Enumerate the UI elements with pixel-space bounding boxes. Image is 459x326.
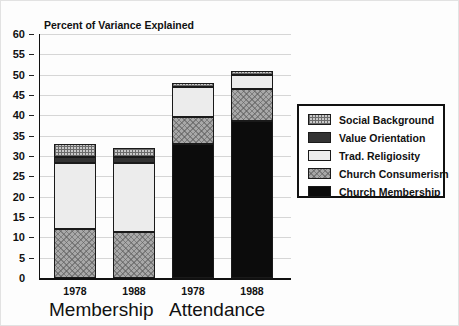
- y-axis-line: [39, 34, 40, 279]
- ytick-mark-5: [29, 258, 34, 259]
- bar-membership-1988: [113, 148, 155, 278]
- xtick-label-membership-1978: 1978: [63, 285, 86, 297]
- bar-segment-social-background: [54, 144, 96, 157]
- xtick-label-attendance-1978: 1978: [181, 285, 204, 297]
- bar-segment-church-consumerism: [54, 229, 96, 278]
- legend-swatch-church-consumerism-icon: [308, 168, 331, 179]
- ytick-mark-10: [29, 237, 34, 238]
- x-axis-line: [39, 278, 291, 280]
- gridline-55: [39, 54, 291, 55]
- legend-row-social-background: Social Background: [308, 113, 434, 126]
- xtick-label-membership-1988: 1988: [122, 285, 145, 297]
- ytick-mark-55: [29, 54, 34, 55]
- legend-label-church-consumerism: Church Consumerism: [339, 168, 449, 180]
- ytick-mark-15: [29, 217, 34, 218]
- legend-row-value-orientation: Value Orientation: [308, 131, 425, 144]
- bar-membership-1978: [54, 144, 96, 278]
- ytick-label-55: 55: [1, 48, 25, 60]
- chart-title: Percent of Variance Explained: [44, 19, 194, 31]
- plot-area: 60 55 50 45 40 35 30 25 20 15 10 5 0: [1, 1, 301, 301]
- legend-row-trad-religiosity: Trad. Religiosity: [308, 149, 420, 162]
- ytick-mark-60: [29, 34, 34, 35]
- ytick-mark-40: [29, 115, 34, 116]
- xaxis-group-label-attendance: Attendance: [169, 299, 265, 321]
- ytick-label-60: 60: [1, 28, 25, 40]
- bar-segment-trad-religiosity: [54, 163, 96, 229]
- chart-legend: Social Background Value Orientation Trad…: [297, 104, 445, 198]
- ytick-label-45: 45: [1, 89, 25, 101]
- ytick-mark-30: [29, 156, 34, 157]
- ytick-mark-20: [29, 197, 34, 198]
- legend-swatch-value-orientation-icon: [308, 132, 331, 143]
- bar-segment-church-membership: [231, 121, 273, 278]
- legend-label-trad-religiosity: Trad. Religiosity: [339, 150, 420, 162]
- xtick-label-attendance-1988: 1988: [240, 285, 263, 297]
- xaxis-group-label-membership: Membership: [49, 299, 154, 321]
- ytick-label-0: 0: [1, 272, 25, 284]
- ytick-label-20: 20: [1, 191, 25, 203]
- legend-swatch-trad-religiosity-icon: [308, 150, 331, 161]
- legend-swatch-church-membership-icon: [308, 186, 331, 197]
- bar-attendance-1988: [231, 71, 273, 279]
- ytick-label-25: 25: [1, 170, 25, 182]
- legend-row-church-consumerism: Church Consumerism: [308, 167, 449, 180]
- legend-label-church-membership: Church Membership: [339, 186, 441, 198]
- ytick-label-30: 30: [1, 150, 25, 162]
- bar-segment-church-consumerism: [113, 232, 155, 278]
- ytick-label-35: 35: [1, 130, 25, 142]
- ytick-mark-35: [29, 136, 34, 137]
- ytick-label-50: 50: [1, 69, 25, 81]
- legend-label-social-background: Social Background: [339, 114, 434, 126]
- bar-segment-trad-religiosity: [172, 87, 214, 118]
- ytick-label-40: 40: [1, 109, 25, 121]
- bar-segment-trad-religiosity: [231, 75, 273, 89]
- bar-segment-trad-religiosity: [113, 163, 155, 233]
- legend-row-church-membership: Church Membership: [308, 185, 441, 198]
- bar-segment-church-membership: [172, 144, 214, 278]
- bar-segment-church-consumerism: [231, 89, 273, 122]
- ytick-label-15: 15: [1, 211, 25, 223]
- ytick-mark-45: [29, 95, 34, 96]
- legend-label-value-orientation: Value Orientation: [339, 132, 425, 144]
- bar-attendance-1978: [172, 83, 214, 278]
- gridline-60: [39, 34, 291, 35]
- ytick-label-10: 10: [1, 231, 25, 243]
- ytick-mark-25: [29, 176, 34, 177]
- chart-page: 60 55 50 45 40 35 30 25 20 15 10 5 0: [0, 0, 459, 326]
- bar-segment-church-consumerism: [172, 117, 214, 143]
- bar-segment-social-background: [113, 148, 155, 157]
- legend-swatch-social-background-icon: [308, 114, 331, 125]
- ytick-label-5: 5: [1, 252, 25, 264]
- ytick-mark-50: [29, 75, 34, 76]
